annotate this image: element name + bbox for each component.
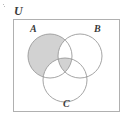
universe-label: U: [14, 5, 23, 17]
set-b-label: B: [94, 24, 101, 34]
venn-diagram-figure: U A B C: [0, 0, 130, 121]
set-c-label: C: [63, 99, 70, 109]
set-a-label: A: [30, 24, 37, 34]
